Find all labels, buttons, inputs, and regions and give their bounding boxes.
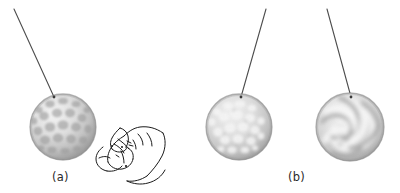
caption-a: (a)	[52, 170, 69, 184]
figure-scene	[0, 0, 400, 193]
ball-dimpled	[30, 94, 96, 160]
string-ball-1	[14, 9, 54, 97]
ball-swirled	[316, 93, 384, 161]
string-ball-3	[327, 9, 351, 97]
figure-container: (a) (b)	[0, 0, 400, 193]
hand-plucking	[96, 127, 165, 184]
caption-b: (b)	[288, 170, 305, 184]
strings-group	[14, 9, 351, 97]
string-ball-2	[241, 9, 266, 97]
ball-blotched	[206, 94, 272, 160]
